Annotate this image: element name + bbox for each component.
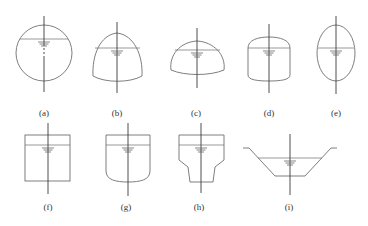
panel-label: (g) (121, 202, 132, 212)
panel-i: (i) (243, 134, 337, 212)
panel-c: (c) (171, 28, 224, 118)
panel-a: (a) (16, 16, 72, 118)
rectangle-outline (25, 135, 70, 181)
panel-g: (g) (106, 123, 150, 212)
panel-label: (f) (44, 202, 53, 212)
panel-label: (d) (264, 108, 275, 118)
hopper-outline (179, 135, 224, 182)
panel-label: (h) (194, 202, 205, 212)
dome-outline (93, 33, 142, 81)
panel-label: (e) (331, 108, 341, 118)
panel-label: (b) (112, 108, 123, 118)
panel-label: (c) (191, 108, 201, 118)
panel-b: (b) (93, 22, 142, 118)
panel-e: (e) (317, 16, 355, 118)
panel-label: (i) (285, 202, 294, 212)
hemisphere-outline (171, 41, 224, 75)
panel-label: (a) (39, 108, 49, 118)
panel-f: (f) (25, 123, 70, 212)
shapes-diagram: (a) (b) (c) (d) (0, 0, 368, 226)
panel-d: (d) (248, 24, 290, 118)
panel-h: (h) (179, 123, 224, 212)
